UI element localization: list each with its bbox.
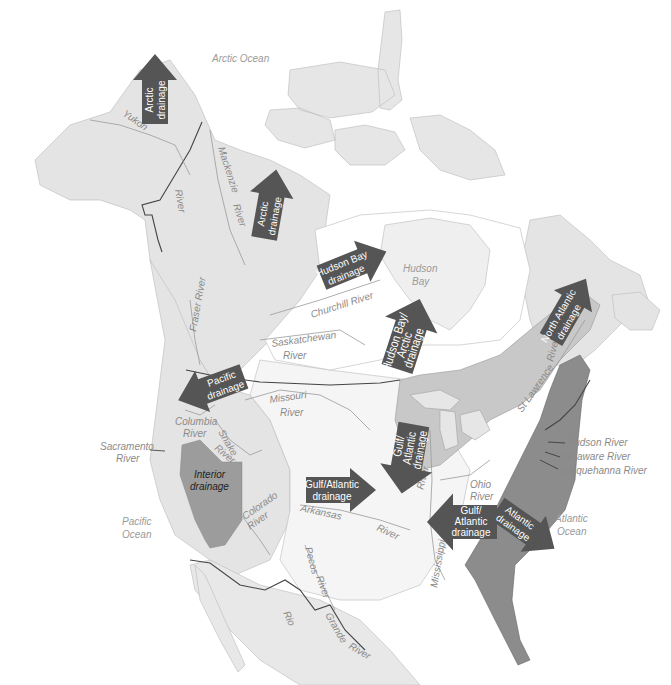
map-canvas: Arctic Ocean Hudson Bay Pacific Ocean At…	[0, 0, 671, 685]
label-sacramento-2: River	[116, 453, 140, 464]
svg-text:Gulf/Atlantic: Gulf/Atlantic	[305, 479, 359, 490]
label-sacramento-1: Sacramento	[100, 441, 154, 452]
label-interior-1: Interior	[194, 469, 226, 480]
label-pacific-ocean-1: Pacific	[122, 516, 151, 527]
svg-text:Gulf/: Gulf/	[460, 505, 481, 516]
label-delaware-river: Delaware River	[562, 451, 631, 462]
label-arctic-ocean: Arctic Ocean	[211, 53, 270, 64]
label-atlantic-ocean-1: Atlantic	[554, 513, 588, 524]
arctic-islands	[265, 10, 505, 180]
label-hudson-bay-1: Hudson	[403, 263, 438, 274]
label-pacific-ocean-2: Ocean	[122, 529, 152, 540]
label-ohio-1: Ohio	[470, 479, 492, 490]
label-hudson-bay-2: Bay	[412, 276, 430, 287]
label-saskatchewan-2: River	[283, 350, 307, 361]
drainage-basin-map: Arctic Ocean Hudson Bay Pacific Ocean At…	[0, 0, 671, 685]
svg-text:drainage: drainage	[452, 527, 491, 538]
label-atlantic-ocean-2: Ocean	[557, 526, 587, 537]
label-missouri-2: River	[280, 407, 304, 418]
label-hudson-river: Hudson River	[567, 437, 628, 448]
svg-text:drainage: drainage	[156, 80, 167, 119]
label-susquehanna-river: Susquehanna River	[559, 465, 648, 476]
label-interior-2: drainage	[190, 481, 229, 492]
label-columbia-2: River	[183, 428, 207, 439]
svg-text:drainage: drainage	[313, 491, 352, 502]
label-columbia-1: Columbia	[175, 416, 218, 427]
svg-text:Atlantic: Atlantic	[455, 516, 488, 527]
svg-text:Arctic: Arctic	[144, 88, 155, 113]
label-ohio-2: River	[470, 491, 494, 502]
